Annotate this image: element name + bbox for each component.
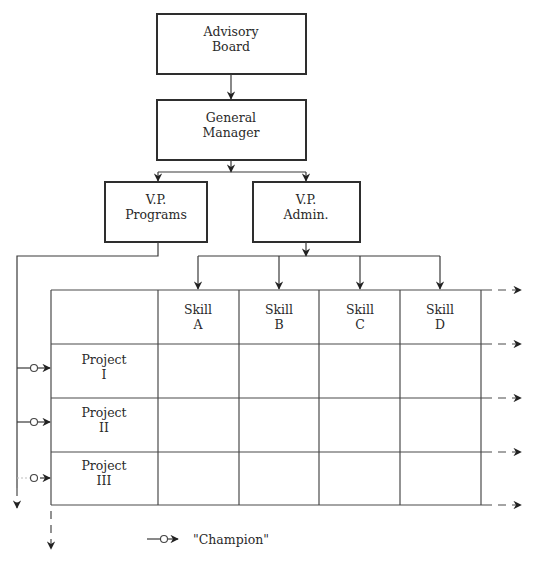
general-manager-label-2: Manager xyxy=(202,125,259,140)
skill-c-label-1: Skill xyxy=(346,302,374,317)
project-i-label-1: Project xyxy=(81,352,126,367)
project-iii-label-1: Project xyxy=(81,458,126,473)
skill-a-label-2: A xyxy=(192,317,203,332)
champion-legend-icon xyxy=(147,536,178,543)
champion-circle-icon xyxy=(31,419,38,426)
skill-a-header: Skill A xyxy=(184,302,212,332)
matrix-org-chart: Advisory Board General Manager V.P. Prog… xyxy=(0,0,539,568)
skill-b-label-2: B xyxy=(274,317,283,332)
project-i-label-2: I xyxy=(102,367,107,382)
skill-b-header: Skill B xyxy=(265,302,293,332)
project-ii-label-2: II xyxy=(99,420,109,435)
champion-arrow-project-iii xyxy=(17,475,50,482)
champion-arrow-project-i xyxy=(17,365,50,372)
skill-d-label-1: Skill xyxy=(426,302,454,317)
legend-champion-label: "Champion" xyxy=(193,532,269,547)
skill-b-label-1: Skill xyxy=(265,302,293,317)
champion-circle-icon xyxy=(31,365,38,372)
skill-c-label-2: C xyxy=(355,317,365,332)
vp-admin-label-1: V.P. xyxy=(295,192,317,207)
champion-arrow-project-ii xyxy=(17,419,50,426)
project-ii-row-header: Project II xyxy=(81,405,126,435)
general-manager-box: General Manager xyxy=(157,100,306,160)
project-ii-label-1: Project xyxy=(81,405,126,420)
vp-programs-label-1: V.P. xyxy=(145,192,167,207)
project-iii-label-2: III xyxy=(97,473,112,488)
advisory-board-box: Advisory Board xyxy=(157,14,306,74)
vp-programs-label-2: Programs xyxy=(125,207,187,222)
vp-admin-label-2: Admin. xyxy=(283,207,329,222)
advisory-board-label-1: Advisory xyxy=(202,24,259,39)
legend: "Champion" xyxy=(147,532,269,547)
advisory-board-label-2: Board xyxy=(212,39,250,54)
project-i-row-header: Project I xyxy=(81,352,126,382)
vp-admin-box: V.P. Admin. xyxy=(253,182,360,242)
vp-programs-box: V.P. Programs xyxy=(105,182,207,242)
skill-a-label-1: Skill xyxy=(184,302,212,317)
skill-c-header: Skill C xyxy=(346,302,374,332)
skill-d-header: Skill D xyxy=(426,302,454,332)
general-manager-label-1: General xyxy=(206,110,256,125)
project-iii-row-header: Project III xyxy=(81,458,126,488)
skill-d-label-2: D xyxy=(435,317,445,332)
champion-circle-icon xyxy=(31,475,38,482)
